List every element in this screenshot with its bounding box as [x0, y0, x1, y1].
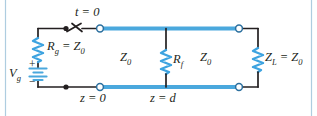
position-source-end-label: z = 0: [80, 92, 106, 105]
load-impedance-label: ZL = Z0: [265, 51, 303, 66]
fault-resistor-label: Rf: [173, 53, 183, 68]
terminal-load-bottom: [236, 84, 243, 91]
position-fault-label: z = d: [150, 92, 176, 105]
load-resistor-zigzag: [253, 48, 263, 72]
line-impedance-left-label: Z0: [120, 51, 131, 66]
source-minus-sign: −: [29, 76, 36, 88]
source-plus-sign: +: [29, 59, 36, 71]
source-label: Vg: [9, 67, 21, 82]
circuit-diagram-figure: t = 0 Rg = Z0 Vg + − Z0 Rf Z0 ZL = Z0 z …: [0, 0, 317, 116]
source-resistor-label: Rg = Z0: [47, 40, 85, 55]
bottom-node-dot: [63, 84, 68, 89]
fault-resistor-zigzag: [161, 50, 171, 74]
terminal-source-bottom: [97, 84, 104, 91]
switch-time-label: t = 0: [75, 6, 99, 19]
line-impedance-right-label: Z0: [200, 51, 211, 66]
terminal-source-top: [97, 25, 104, 32]
terminal-load-top: [236, 25, 243, 32]
